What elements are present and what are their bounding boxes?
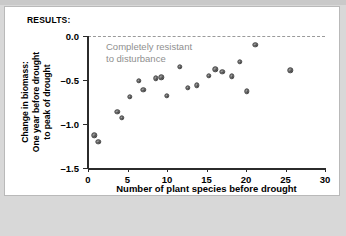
data-point [159,75,164,80]
annotation-line: to disturbance [106,53,192,65]
y-axis-title: Change in biomass:One year before drough… [13,36,59,168]
scatter-plot-area: 0510152025300.0–0.5–1.0–1.5 Completely r… [88,36,325,168]
y-axis-title-lines: Change in biomass:One year before drough… [20,52,53,152]
data-point [194,83,199,88]
results-card: RESULTS: 0510152025300.0–0.5–1.0–1.5 Com… [4,6,340,196]
y-tick-0.0 [83,36,88,37]
data-point [115,109,120,114]
y-axis-title-line: One year before drought [31,52,42,152]
data-point [119,115,124,120]
y-tick-label--1.5: –1.5 [61,163,80,174]
data-point [212,67,217,72]
data-point [220,69,225,74]
y-tick-label--1.0: –1.0 [61,119,80,130]
data-point [164,93,169,98]
data-point [136,78,141,83]
zero-reference-line [88,36,325,37]
y-tick-label-0.0: 0.0 [66,31,79,42]
data-point [288,68,293,73]
x-tick-25 [286,168,287,172]
x-tick-0 [88,168,89,172]
results-header: RESULTS: [27,15,70,25]
data-point [177,64,182,69]
x-tick-10 [167,168,168,172]
data-point [141,87,146,92]
data-point [244,89,249,94]
y-axis-line [87,36,89,169]
y-tick-label--0.5: –0.5 [61,75,80,86]
x-tick-20 [246,168,247,172]
y-axis-title-line: to peak of drought [42,52,53,152]
completely-resistant-note: Completely resistantto disturbance [106,41,192,64]
x-axis-title: Number of plant species before drought [88,183,325,194]
data-point [237,59,242,64]
y-tick--1.0 [83,124,88,125]
x-tick-30 [325,168,326,172]
data-point [185,85,190,90]
y-tick--0.5 [83,80,88,81]
data-point [206,73,211,78]
data-point [229,74,234,79]
top-band [0,0,346,5]
data-point [127,94,132,99]
y-axis-title-line: Change in biomass: [20,52,31,152]
x-tick-15 [207,168,208,172]
annotation-line: Completely resistant [106,41,192,53]
data-point [253,42,258,47]
data-point [92,133,97,138]
y-tick--1.5 [83,168,88,169]
x-tick-5 [128,168,129,172]
data-point [96,139,101,144]
